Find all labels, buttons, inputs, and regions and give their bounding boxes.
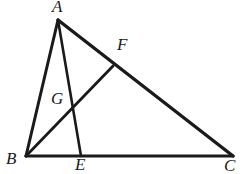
vertex-label-g: G (51, 90, 63, 107)
triangle-diagram-svg (0, 0, 245, 174)
vertex-label-a: A (52, 0, 62, 15)
vertex-label-c: C (224, 157, 235, 174)
vertex-label-b: B (6, 150, 16, 167)
geometry-figure: A F G B E C (0, 0, 245, 174)
figure-background (0, 0, 245, 174)
vertex-label-f: F (117, 36, 127, 53)
vertex-label-e: E (75, 156, 85, 173)
